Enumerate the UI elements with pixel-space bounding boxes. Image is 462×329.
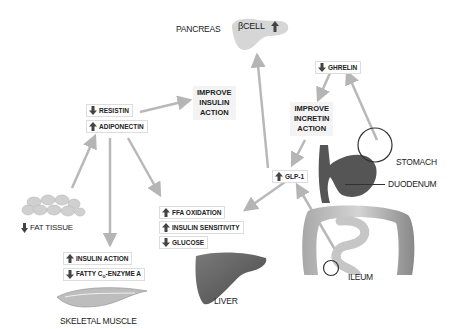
down-arrow-icon <box>21 223 28 233</box>
fat-tissue-illustration <box>20 190 86 220</box>
action-line: ACTION <box>294 124 329 134</box>
marker-label: FFA OXIDATION <box>172 209 221 216</box>
marker-label: INSULIN SENSITIVITY <box>172 224 240 231</box>
fatty-coa-marker: FATTY Co-ENZYME A <box>63 268 145 281</box>
action-line: INCRETIN <box>294 114 329 124</box>
marker-label: FATTY Co-ENZYME A <box>76 270 141 279</box>
fat-tissue-label: FAT TISSUE <box>30 223 73 232</box>
stomach-highlight-circle <box>355 125 395 165</box>
resistin-marker: RESISTIN <box>86 104 133 117</box>
up-arrow-icon <box>162 223 170 232</box>
beta-cell-label: βCELL <box>238 21 265 31</box>
down-arrow-icon <box>89 106 97 115</box>
action-line: IMPROVE <box>294 104 329 114</box>
down-arrow-icon <box>162 238 170 247</box>
down-arrow-icon <box>66 270 74 279</box>
up-arrow-icon <box>271 21 279 32</box>
ghrelin-marker: GHRELIN <box>315 61 361 74</box>
action-line: INSULIN <box>197 98 232 108</box>
stomach-label: STOMACH <box>396 157 437 167</box>
action-line: IMPROVE <box>197 88 232 98</box>
marker-label: RESISTIN <box>99 107 129 114</box>
adiponectin-marker: ADIPONECTIN <box>86 120 148 133</box>
skeletal-muscle-illustration <box>55 285 150 310</box>
up-arrow-icon <box>66 254 74 263</box>
ileum-highlight-circle <box>321 258 341 278</box>
marker-label: GHRELIN <box>328 64 357 71</box>
pancreas-label: PANCREAS <box>176 24 221 34</box>
down-arrow-icon <box>318 63 326 72</box>
skeletal-muscle-label: SKELETAL MUSCLE <box>60 316 137 326</box>
improve-insulin-action: IMPROVE INSULIN ACTION <box>193 86 236 120</box>
pancreas-illustration <box>228 14 290 54</box>
insulin-action-marker: INSULIN ACTION <box>63 252 132 265</box>
duodenum-pointer-line <box>345 184 385 185</box>
label-part: -ENZYME A <box>106 270 142 277</box>
ileum-label: ILEUM <box>348 272 373 282</box>
marker-label: ADIPONECTIN <box>99 123 144 130</box>
glucose-marker: GLUCOSE <box>159 236 208 249</box>
marker-label: GLUCOSE <box>172 239 204 246</box>
label-part: FATTY C <box>76 270 102 277</box>
ffa-oxidation-marker: FFA OXIDATION <box>159 206 225 219</box>
up-arrow-icon <box>275 172 283 181</box>
action-line: ACTION <box>197 108 232 118</box>
improve-incretin-action: IMPROVE INCRETIN ACTION <box>290 102 333 136</box>
marker-label: INSULIN ACTION <box>76 255 128 262</box>
liver-label: LIVER <box>214 296 238 306</box>
up-arrow-icon <box>89 122 97 131</box>
insulin-sensitivity-marker: INSULIN SENSITIVITY <box>159 221 244 234</box>
up-arrow-icon <box>162 208 170 217</box>
duodenum-label: DUODENUM <box>388 179 436 189</box>
